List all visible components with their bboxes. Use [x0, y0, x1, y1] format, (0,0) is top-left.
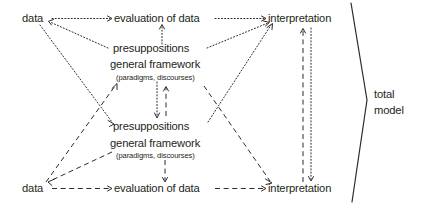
edge-upper-presuppositions-to-top-data [49, 20, 109, 49]
edge-top-data-to-lower-presuppositions [40, 25, 114, 127]
node-upper-presuppositions: presuppositions [113, 42, 190, 54]
edge-upper-presuppositions-to-top-interpretation [207, 21, 270, 48]
node-lower-framework: general framework [110, 137, 201, 149]
edge-bottom-interpretation-to-top-interpretation [301, 29, 306, 183]
node-top-data: data [22, 12, 44, 24]
edge-bottom-data-to-bottom-evaluation [52, 186, 112, 191]
node-bottom-evaluation: evaluation of data [114, 182, 201, 194]
edge-upper-to-lower-framework [155, 82, 160, 118]
edge-bottom-evaluation-to-bottom-interpretation [215, 186, 266, 191]
node-bottom-data: data [22, 182, 44, 194]
edge-bottom-data-to-upper-framework [46, 84, 117, 183]
node-top-interpretation: interpretation [268, 12, 331, 24]
brace-label-line1: total [374, 88, 394, 100]
edge-top-evaluation-to-top-interpretation [215, 16, 266, 21]
edge-lower-to-upper-framework [164, 87, 169, 117]
node-lower-presuppositions: presuppositions [113, 120, 190, 132]
diagram-canvas: data evaluation of data interpretation p… [0, 0, 426, 205]
edge-lower-presuppositions-to-top-interpretation [208, 24, 273, 123]
node-bottom-interpretation: interpretation [268, 182, 331, 194]
edge-top-interpretation-to-bottom-interpretation [309, 28, 314, 181]
edge-lower-framework-to-bottom-evaluation [163, 160, 168, 182]
edge-lower-presuppositions-to-bottom-data [48, 152, 112, 186]
brace-label-line2: model [374, 104, 404, 116]
node-upper-framework-note: (paradigms, discourses) [116, 73, 195, 82]
node-lower-framework-note: (paradigms, discourses) [116, 151, 195, 160]
diagram-svg: data evaluation of data interpretation p… [0, 0, 426, 205]
edge-top-data-to-top-evaluation [52, 16, 112, 21]
edge-upper-framework-to-bottom-interpretation [204, 86, 272, 185]
total-model-brace [351, 3, 367, 202]
node-top-evaluation: evaluation of data [114, 12, 201, 24]
node-upper-framework: general framework [110, 58, 201, 70]
